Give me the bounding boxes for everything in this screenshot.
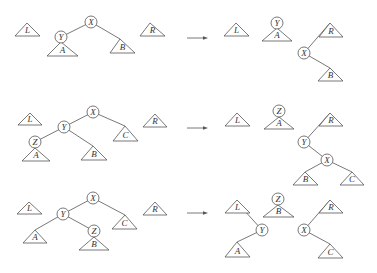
subtree-L: L xyxy=(225,113,250,126)
node-label: X xyxy=(300,48,307,58)
subtree-label: C xyxy=(121,218,128,228)
subtree-B: B xyxy=(263,205,294,217)
subtree-B: B xyxy=(293,172,318,185)
subtree-label: B xyxy=(91,149,97,159)
node-Y: Y xyxy=(271,17,283,29)
node-label: X xyxy=(300,225,307,235)
node-Z: Z xyxy=(88,225,100,237)
subtree-label: A xyxy=(234,246,241,256)
subtree-label: L xyxy=(24,25,30,35)
subtree-label: C xyxy=(349,174,356,184)
subtree-label: C xyxy=(122,130,129,140)
subtree-B: B xyxy=(79,237,109,250)
node-Y: Y xyxy=(58,121,70,133)
node-Y: Y xyxy=(55,31,67,43)
subtree-A: A xyxy=(264,117,294,129)
subtree-label: L xyxy=(234,115,240,125)
node-X: X xyxy=(298,224,310,236)
subtree-label: R xyxy=(327,115,334,125)
subtree-L: L xyxy=(18,113,42,125)
node-Y: Y xyxy=(57,208,69,220)
subtree-label: C xyxy=(327,247,334,257)
subtree-A: A xyxy=(23,230,47,243)
subtree-label: B xyxy=(303,174,309,184)
node-X: X xyxy=(87,192,99,204)
subtree-label: R xyxy=(151,204,158,214)
tree-row1-after: LARBYX xyxy=(224,17,343,81)
node-label: X xyxy=(323,155,330,165)
transform-arrow-icon xyxy=(187,126,208,130)
subtree-label: A xyxy=(275,118,282,128)
subtree-C: C xyxy=(340,172,364,185)
subtree-L: L xyxy=(17,202,42,214)
node-label: X xyxy=(89,107,96,117)
transform-arrow-icon xyxy=(187,36,208,40)
node-X: X xyxy=(321,154,333,166)
subtree-label: B xyxy=(120,42,126,52)
subtree-B: B xyxy=(318,68,343,81)
subtree-C: C xyxy=(112,215,137,229)
subtree-R: R xyxy=(140,23,165,36)
subtree-B: B xyxy=(110,39,135,53)
node-Z: Z xyxy=(29,136,41,148)
node-X: X xyxy=(85,16,97,28)
subtree-L: L xyxy=(225,200,250,213)
node-Z: Z xyxy=(272,193,284,205)
subtree-R: R xyxy=(319,23,343,37)
subtree-R: R xyxy=(319,200,343,213)
tree-row2-before: LABCRXYZ xyxy=(18,106,167,161)
subtree-label: R xyxy=(327,202,334,212)
subtree-R: R xyxy=(319,113,343,126)
subtree-L: L xyxy=(15,23,40,36)
subtree-C: C xyxy=(113,126,138,141)
node-label: X xyxy=(89,193,96,203)
subtree-label: R xyxy=(327,26,334,36)
subtree-B: B xyxy=(81,146,107,160)
tree-row3-before: LABCRXYZ xyxy=(17,192,167,250)
subtree-label: R xyxy=(149,25,156,35)
subtree-label: B xyxy=(91,239,97,249)
subtree-label: B xyxy=(276,206,282,216)
node-Y: Y xyxy=(256,224,268,236)
node-X: X xyxy=(87,106,99,118)
subtree-R: R xyxy=(143,114,167,127)
tree-row1-before: LABRXY xyxy=(15,16,165,56)
tree-row3-after: LBRACZYX xyxy=(225,193,343,258)
subtree-label: A xyxy=(273,30,280,40)
node-Y: Y xyxy=(298,136,310,148)
subtree-label: R xyxy=(151,116,158,126)
subtree-label: L xyxy=(234,202,240,212)
tree-row2-after: LARBCZYX xyxy=(225,105,364,185)
splay-rotation-diagram: LABRXYLARBYXLABCRXYZLARBCZYXLABCRXYZLBRA… xyxy=(0,0,377,273)
subtree-R: R xyxy=(143,202,167,215)
transform-arrow-icon xyxy=(187,211,208,215)
subtree-label: B xyxy=(328,70,334,80)
subtree-C: C xyxy=(318,244,343,258)
subtree-A: A xyxy=(22,148,50,161)
subtree-label: A xyxy=(59,45,66,55)
subtree-label: L xyxy=(233,25,239,35)
node-Z: Z xyxy=(273,105,285,117)
subtree-A: A xyxy=(47,42,78,56)
node-X: X xyxy=(298,47,310,59)
diagram-svg: LABRXYLARBYXLABCRXYZLARBCZYXLABCRXYZLBRA… xyxy=(0,0,377,273)
subtree-label: A xyxy=(32,150,39,160)
node-label: X xyxy=(87,17,94,27)
subtree-label: A xyxy=(31,232,38,242)
subtree-L: L xyxy=(224,23,249,36)
subtree-label: L xyxy=(26,114,32,124)
subtree-A: A xyxy=(262,28,292,41)
subtree-label: L xyxy=(26,203,32,213)
subtree-A: A xyxy=(225,242,250,257)
